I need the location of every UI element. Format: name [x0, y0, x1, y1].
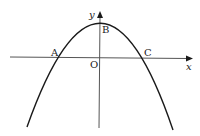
point-b-label: B — [102, 24, 109, 35]
parabola-diagram: y B A C O x — [0, 0, 200, 136]
y-axis-arrow-icon — [97, 11, 103, 18]
y-axis — [99, 17, 100, 128]
point-a-label: A — [50, 47, 59, 58]
x-axis-label: x — [186, 61, 192, 72]
y-axis-label: y — [88, 9, 95, 20]
point-c-label: C — [144, 47, 152, 58]
origin-label: O — [90, 59, 98, 70]
